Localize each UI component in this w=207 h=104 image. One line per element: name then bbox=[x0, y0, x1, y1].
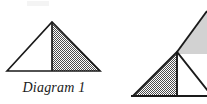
diagram-2-figure bbox=[131, 11, 207, 96]
diagram-1-caption: Diagram 1 bbox=[8, 80, 100, 96]
screenshot-root: Diagram 1 bbox=[0, 0, 207, 104]
diagram-1-figure bbox=[7, 22, 100, 71]
